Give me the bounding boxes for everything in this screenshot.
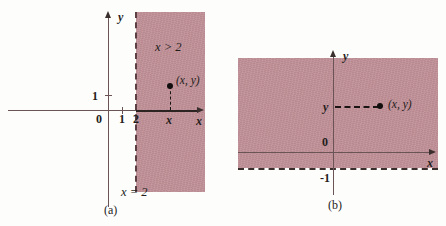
y-axis-label-a: y: [118, 11, 123, 23]
caption-b: (b): [328, 199, 342, 211]
origin-label-a: 0: [96, 113, 102, 125]
x-axis-b: [238, 152, 430, 153]
x-axis-arrow-b: [429, 149, 436, 155]
x-axis-label-b: x: [427, 157, 433, 169]
y-axis-a: [108, 17, 109, 207]
x-tick-label-1-a: 1: [119, 113, 125, 125]
point-x-label-a: x: [166, 114, 172, 126]
panel-b: y x 0 -1 y (x, y) (b): [223, 0, 446, 226]
point-label-b: (x, y): [388, 99, 412, 111]
figure-container: y x 0 1 2 1 x > 2 x = 2 (x, y) x (a) y x…: [0, 0, 446, 226]
boundary-line-x-equals-2: [135, 12, 137, 192]
point-y-label-b: y: [323, 101, 328, 113]
y-tick-label-1-a: 1: [92, 90, 98, 102]
boundary-label-a: x = 2: [121, 186, 147, 199]
x-tick-label-2-a: 2: [133, 113, 139, 125]
point-marker-b: [377, 103, 383, 109]
point-leader-horizontal-b: [335, 106, 379, 108]
point-leader-vertical-a: [170, 86, 171, 110]
x-axis-a-dark-segment: [136, 110, 198, 112]
x-axis-label-a: x: [196, 115, 202, 127]
caption-a: (a): [104, 204, 117, 216]
y-axis-label-b: y: [343, 50, 348, 62]
panel-a: y x 0 1 2 1 x > 2 x = 2 (x, y) x (a): [0, 0, 223, 226]
boundary-line-y-equals-minus-1: [238, 168, 438, 170]
y-axis-arrow-a: [105, 11, 111, 18]
origin-label-b: 0: [322, 136, 328, 148]
y-tick-label-minus1-b: -1: [320, 172, 330, 184]
x-axis-arrow-a: [197, 107, 204, 113]
point-label-a: (x, y): [176, 75, 200, 87]
region-label-a: x > 2: [155, 41, 181, 54]
y-axis-arrow-b: [330, 50, 336, 57]
y-tick-1-a: [105, 95, 112, 96]
y-axis-b: [333, 56, 334, 195]
point-marker-a: [167, 83, 173, 89]
